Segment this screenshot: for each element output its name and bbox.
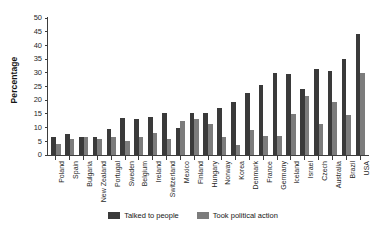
x-axis-label-cell: Denmark bbox=[243, 161, 257, 207]
bar-group bbox=[104, 18, 118, 155]
plot-area bbox=[48, 18, 368, 155]
x-axis-tick-mark bbox=[69, 156, 70, 160]
x-axis-label-cell: Czech bbox=[312, 161, 326, 207]
bar bbox=[208, 124, 213, 156]
bar bbox=[263, 136, 268, 155]
x-axis-label-cell: Switzerland bbox=[160, 161, 174, 207]
bar bbox=[167, 139, 172, 155]
x-axis-tick-mark bbox=[263, 156, 264, 160]
x-axis-label-cell: Australia bbox=[326, 161, 340, 207]
bar bbox=[360, 73, 365, 155]
bar-group bbox=[298, 18, 312, 155]
legend-label: Talked to people bbox=[124, 212, 179, 220]
bar-groups bbox=[48, 18, 368, 155]
y-axis-tick-label: 25 bbox=[34, 83, 45, 91]
bar-group bbox=[118, 18, 132, 155]
legend-item[interactable]: Talked to people bbox=[108, 212, 179, 220]
y-axis-tick-label: 45 bbox=[34, 28, 45, 36]
x-axis-label-cell: Brazil bbox=[339, 161, 353, 207]
x-axis-label-cell: France bbox=[256, 161, 270, 207]
x-axis-label: USA bbox=[363, 161, 370, 175]
x-axis-tick-mark bbox=[235, 156, 236, 160]
x-axis-tick-mark bbox=[318, 156, 319, 160]
x-axis-tick-mark bbox=[152, 156, 153, 160]
bar bbox=[346, 115, 351, 155]
y-axis-tick-label: 15 bbox=[34, 110, 45, 118]
bar-group bbox=[326, 18, 340, 155]
bar-group bbox=[173, 18, 187, 155]
bar bbox=[70, 139, 75, 155]
x-axis-tick-mark bbox=[125, 156, 126, 160]
x-axis-label-cell: New Zealand bbox=[90, 161, 104, 207]
bar bbox=[277, 136, 282, 155]
bar bbox=[139, 137, 144, 155]
bar-group bbox=[353, 18, 367, 155]
x-axis-tick-mark bbox=[277, 156, 278, 160]
bar-group bbox=[339, 18, 353, 155]
bar bbox=[305, 96, 310, 155]
x-axis-label-cell: Ireland bbox=[146, 161, 160, 207]
bar bbox=[56, 144, 61, 155]
y-axis-tick-label: 20 bbox=[34, 96, 45, 104]
x-axis-tick-mark bbox=[346, 156, 347, 160]
bar bbox=[319, 124, 324, 156]
bar bbox=[222, 137, 227, 155]
x-axis-tick-mark bbox=[83, 156, 84, 160]
bar-group bbox=[77, 18, 91, 155]
x-axis-label-cell: USA bbox=[353, 161, 367, 207]
x-axis-label-cell: Belgium bbox=[132, 161, 146, 207]
bar bbox=[125, 141, 130, 155]
bar-group bbox=[132, 18, 146, 155]
x-axis-label-cell: Spain bbox=[63, 161, 77, 207]
legend-swatch bbox=[197, 212, 209, 219]
legend-swatch bbox=[108, 212, 120, 219]
x-axis-tick-mark bbox=[111, 156, 112, 160]
x-axis-tick-mark bbox=[97, 156, 98, 160]
x-axis-label-cell: Norway bbox=[215, 161, 229, 207]
bar bbox=[291, 114, 296, 155]
bar-group bbox=[284, 18, 298, 155]
x-axis-tick-mark bbox=[138, 156, 139, 160]
y-axis-tick-label: 40 bbox=[34, 42, 45, 50]
bar-group bbox=[312, 18, 326, 155]
x-axis-tick-mark bbox=[208, 156, 209, 160]
bar bbox=[194, 119, 199, 155]
bar-group bbox=[90, 18, 104, 155]
x-axis-label-cell: Israel bbox=[298, 161, 312, 207]
bar-group bbox=[229, 18, 243, 155]
y-axis-tick-label: 30 bbox=[34, 69, 45, 77]
bar bbox=[111, 137, 116, 155]
x-axis-tick-mark bbox=[221, 156, 222, 160]
x-axis-tick-mark bbox=[55, 156, 56, 160]
x-axis-tick-mark bbox=[194, 156, 195, 160]
y-axis-tick-label: 5 bbox=[38, 138, 45, 146]
legend-label: Took political action bbox=[213, 212, 278, 220]
y-axis-tick-label: 0 bbox=[38, 151, 45, 159]
x-axis-label-cell: Iceland bbox=[284, 161, 298, 207]
bar bbox=[97, 139, 102, 155]
bar-group bbox=[146, 18, 160, 155]
bar-group bbox=[187, 18, 201, 155]
x-axis-label-cell: Hungary bbox=[201, 161, 215, 207]
y-axis-tick-label: 50 bbox=[34, 14, 45, 22]
x-axis-label-cell: Korea bbox=[229, 161, 243, 207]
bar bbox=[153, 133, 158, 155]
x-axis-tick-mark bbox=[360, 156, 361, 160]
bar-group bbox=[270, 18, 284, 155]
x-axis-tick-mark bbox=[166, 156, 167, 160]
x-axis-tick-mark bbox=[180, 156, 181, 160]
x-axis-tick-mark bbox=[249, 156, 250, 160]
x-axis-label-cell: Germany bbox=[270, 161, 284, 207]
bar-group bbox=[215, 18, 229, 155]
x-axis-tick-mark bbox=[332, 156, 333, 160]
bar-group bbox=[160, 18, 174, 155]
x-axis-label-cell: Sweden bbox=[118, 161, 132, 207]
x-axis-label-cell: Mexico bbox=[173, 161, 187, 207]
bar-chart-figure: Percentage 05101520253035404550 PolandSp… bbox=[0, 0, 386, 235]
x-axis-label-cell: Bulgaria bbox=[77, 161, 91, 207]
x-axis-label-cell: Portugal bbox=[104, 161, 118, 207]
bar bbox=[180, 121, 185, 155]
y-axis-tick-label: 35 bbox=[34, 55, 45, 63]
bar-group bbox=[63, 18, 77, 155]
legend-item[interactable]: Took political action bbox=[197, 212, 278, 220]
